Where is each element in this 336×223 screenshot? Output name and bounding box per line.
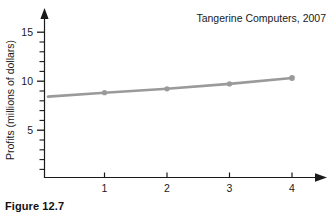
line-chart-svg: 15 10 5 1 2 3 4 <box>0 0 336 196</box>
y-tick-label-15: 15 <box>21 26 33 38</box>
y-tick-label-10: 10 <box>21 75 33 87</box>
y-axis-major-ticks <box>37 32 45 130</box>
y-axis-arrowhead-icon <box>40 8 48 19</box>
data-point-q4 <box>289 75 295 81</box>
x-tick-label-2: 2 <box>164 182 170 194</box>
y-axis-label: Profits (millions of dollars) <box>4 40 16 160</box>
chart-area: 15 10 5 1 2 3 4 <box>0 0 336 196</box>
x-tick-label-1: 1 <box>102 182 108 194</box>
x-axis-ticks <box>105 173 293 178</box>
figure-caption: Figure 12.7 <box>5 200 64 212</box>
data-series-line <box>48 78 292 97</box>
data-point-q1 <box>102 90 107 95</box>
x-tick-label-4: 4 <box>289 182 295 194</box>
y-tick-label-5: 5 <box>27 124 33 136</box>
figure-container: 15 10 5 1 2 3 4 <box>0 0 336 223</box>
y-axis-minor-ticks <box>40 42 45 169</box>
data-point-q3 <box>227 81 232 86</box>
x-axis-arrowhead-icon <box>315 173 327 182</box>
chart-title: Tangerine Computers, 2007 <box>196 12 326 24</box>
x-tick-label-3: 3 <box>227 182 233 194</box>
data-point-q2 <box>164 86 169 91</box>
